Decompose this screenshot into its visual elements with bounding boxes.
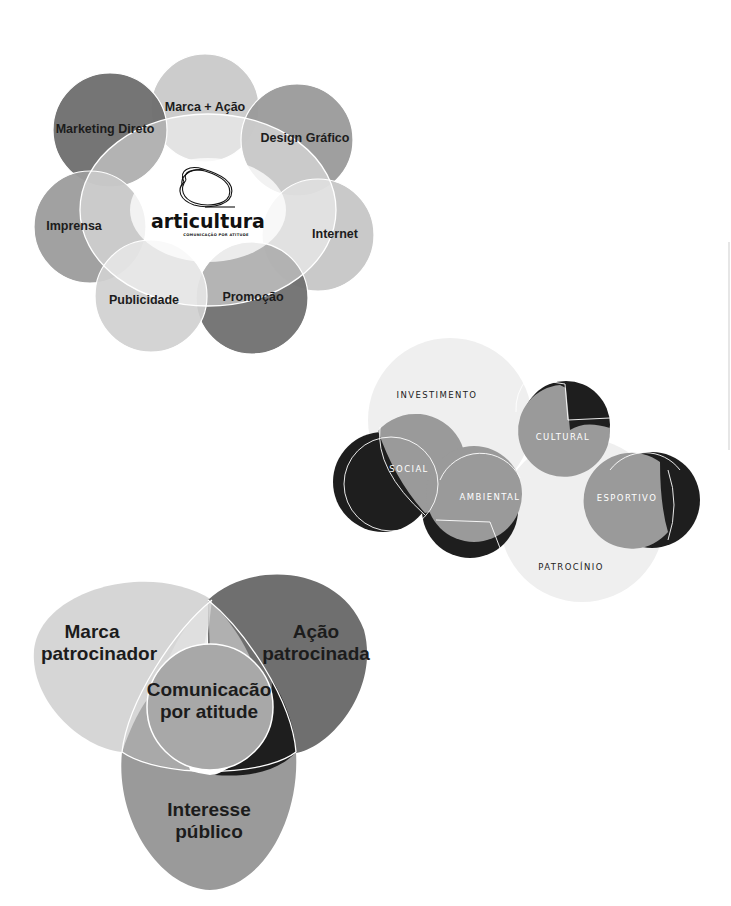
- label-publico: público: [175, 821, 243, 842]
- label-patrocinio: PATROCÍNIO: [538, 561, 604, 572]
- label-esportivo: ESPORTIVO: [597, 493, 658, 503]
- logo-brand-text: articultura: [151, 210, 265, 232]
- label-por-atitude: por atitude: [160, 701, 258, 722]
- label-ambiental: AMBIENTAL: [460, 492, 521, 502]
- label-comunicacao: Comunicacão: [147, 679, 272, 700]
- label-acao: Ação: [293, 621, 339, 642]
- services-diagram: Marca + Ação Design Gráfico Internet Pro…: [34, 54, 374, 354]
- label-patrocinada: patrocinada: [262, 643, 370, 664]
- label-promocao: Promoção: [222, 290, 283, 304]
- logo-tagline: COMUNICAÇÃO POR ATITUDE: [183, 232, 249, 237]
- label-imprensa: Imprensa: [46, 219, 103, 233]
- diagrams-canvas: Marca + Ação Design Gráfico Internet Pro…: [0, 0, 731, 906]
- label-cultural: CULTURAL: [536, 432, 590, 442]
- label-investimento: INVESTIMENTO: [397, 390, 478, 400]
- label-design-grafico: Design Gráfico: [261, 131, 350, 145]
- label-marca-acao: Marca + Ação: [165, 100, 246, 114]
- label-internet: Internet: [312, 227, 359, 241]
- label-marketing-direto: Marketing Direto: [56, 122, 155, 136]
- label-publicidade: Publicidade: [109, 293, 179, 307]
- label-marca: Marca: [65, 621, 120, 642]
- investment-diagram: INVESTIMENTO PATROCÍNIO SOCIAL AMBIENTAL…: [333, 338, 700, 602]
- communication-venn: Marca patrocinador Ação patrocinada Comu…: [34, 575, 370, 890]
- label-interesse: Interesse: [167, 799, 250, 820]
- label-social: SOCIAL: [389, 464, 428, 474]
- label-patrocinador: patrocinador: [41, 643, 158, 664]
